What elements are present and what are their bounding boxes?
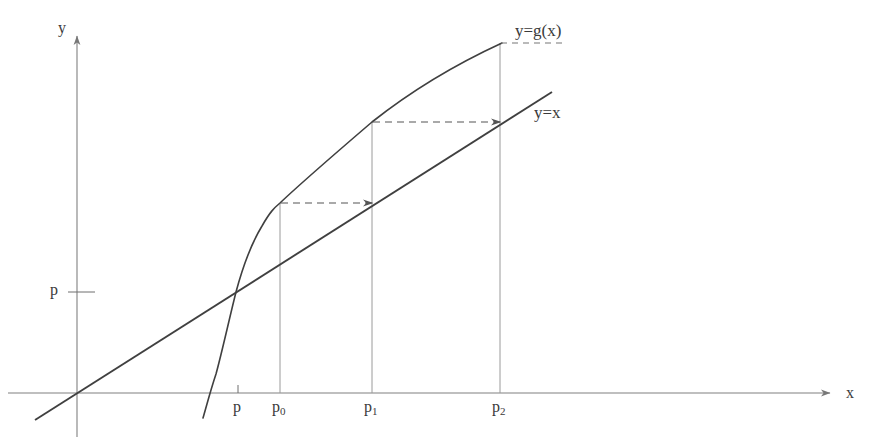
diagram-canvas <box>0 0 881 447</box>
y-axis-label: y <box>58 20 66 36</box>
fixed-point-iteration-diagram: y x y=g(x) y=x p p p0 p1 p2 <box>0 0 881 447</box>
iteration-guides-group <box>280 43 500 393</box>
x-tick-label-p1: p1 <box>364 399 378 417</box>
y-tick-label-p: p <box>50 282 58 298</box>
dashed-arrows-group <box>281 43 563 203</box>
line-label-y-equals-x: y=x <box>534 104 561 121</box>
identity-line-y-equals-x <box>35 92 552 420</box>
x-tick-label-p2: p2 <box>492 399 506 417</box>
x-tick-label-p0: p0 <box>272 399 286 417</box>
curve-y-equals-g-of-x <box>203 43 502 418</box>
curve-label-y-equals-g-of-x: y=g(x) <box>515 22 561 39</box>
x-tick-label-p: p <box>233 399 241 415</box>
x-axis-label: x <box>846 385 854 401</box>
axes-group <box>8 36 830 437</box>
